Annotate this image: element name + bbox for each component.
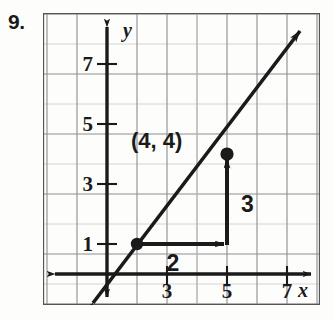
graph-svg: y x 7 5 3 1 3 5 7 (4, 4) 2 3 — [43, 13, 320, 305]
rise-label: 3 — [241, 191, 254, 217]
y-tick-label-3: 3 — [83, 172, 94, 196]
point-coordinate-label: (4, 4) — [131, 128, 182, 153]
x-tick-label-5: 5 — [222, 279, 233, 303]
point-2-1 — [131, 238, 143, 250]
y-tick-label-7: 7 — [83, 52, 94, 76]
coordinate-graph: y x 7 5 3 1 3 5 7 (4, 4) 2 3 — [43, 13, 320, 305]
worksheet-figure: 9. — [0, 0, 333, 320]
x-tick-label-7: 7 — [282, 279, 293, 303]
point-4-4 — [220, 147, 233, 160]
y-axis-label: y — [121, 19, 132, 42]
x-tick-label-3: 3 — [162, 279, 173, 303]
problem-number: 9. — [8, 10, 25, 34]
x-axis-label: x — [297, 279, 308, 301]
run-label: 2 — [167, 250, 180, 276]
y-tick-label-1: 1 — [83, 232, 94, 256]
y-tick-label-5: 5 — [83, 112, 94, 136]
